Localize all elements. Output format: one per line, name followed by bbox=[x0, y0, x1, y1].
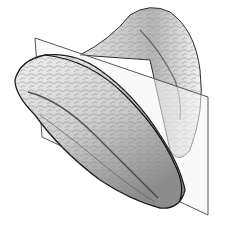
sliced-organ-drawing bbox=[0, 0, 228, 229]
illustration-figure bbox=[0, 0, 228, 229]
